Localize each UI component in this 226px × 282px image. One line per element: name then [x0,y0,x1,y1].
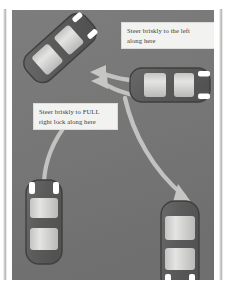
scene-graphics [12,10,214,280]
car-lamp-right [53,182,59,194]
car-bottom-left [26,180,62,264]
car-windscreen [174,73,194,97]
callout-full-right-lock: Steer briskly to FULL right lock along h… [33,103,118,130]
car-lamp-right [189,274,195,280]
car-lamp-left [165,274,171,280]
callout-steer-left: Steer briskly to the left along here [121,22,214,49]
car-middle-right [130,68,210,102]
car-bottom-right [161,201,199,280]
car-windscreen [165,248,195,270]
manoeuvre-diagram: Steer briskly to the left along here Ste… [0,0,226,282]
callout-full-right-lock-line1: Steer briskly to FULL [39,107,113,117]
callout-steer-left-line1: Steer briskly to the left [127,26,212,36]
car-lamp-left [198,71,210,77]
car-lamp-left [29,182,35,194]
callout-steer-left-line2: along here [127,36,212,46]
car-rear-window [144,73,166,97]
car-rear-window [30,228,58,250]
car-lamp-right [198,94,210,100]
right-rail-decoration [219,9,223,280]
car-rear-window [165,216,195,240]
car-windscreen [30,198,58,218]
callout-full-right-lock-line2: right lock along here [39,117,113,127]
left-rail-decoration [3,9,7,280]
scene: Steer briskly to the left along here Ste… [12,10,214,280]
